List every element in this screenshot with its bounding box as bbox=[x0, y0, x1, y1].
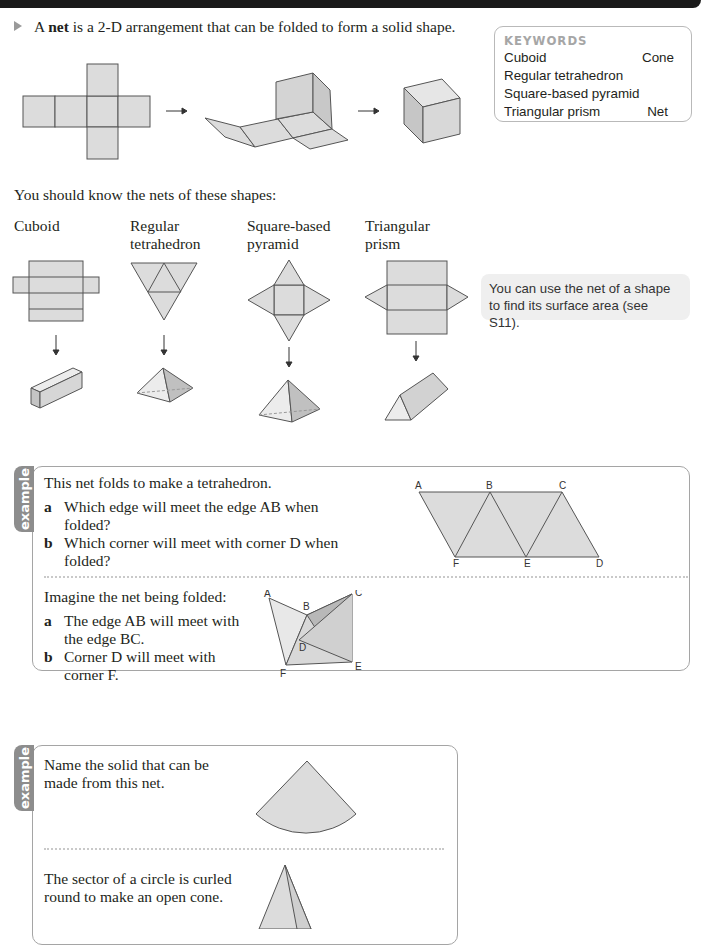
part-label: a bbox=[44, 498, 64, 534]
square-pyramid-net bbox=[248, 260, 330, 341]
nets-intro: You should know the nets of these shapes… bbox=[14, 186, 276, 204]
keywords-box: KEYWORDS CuboidCone Regular tetrahedron … bbox=[494, 26, 692, 122]
answer-line: Corner D will meet with bbox=[64, 648, 216, 665]
svg-text:D: D bbox=[299, 642, 306, 653]
svg-text:B: B bbox=[303, 601, 310, 612]
answer-line: round to make an open cone. bbox=[44, 888, 232, 906]
part-label: a bbox=[44, 612, 64, 648]
sector-net-diagram bbox=[250, 758, 370, 843]
answer-line: the edge BC. bbox=[64, 630, 145, 647]
answer-line: The sector of a circle is curled bbox=[44, 870, 232, 888]
shape-label-line: Regular bbox=[130, 217, 201, 235]
top-banner bbox=[0, 0, 701, 8]
shape-label-line: Cuboid bbox=[14, 217, 60, 235]
keyword: Triangular prism bbox=[504, 103, 600, 121]
divider bbox=[44, 848, 444, 850]
svg-text:C: C bbox=[559, 480, 566, 491]
shape-nets-diagram bbox=[0, 255, 480, 425]
svg-text:E: E bbox=[524, 558, 531, 569]
question-part: bWhich corner will meet with corner D wh… bbox=[44, 534, 364, 570]
example2-question: Name the solid that can bemade from this… bbox=[44, 756, 209, 792]
keyword: Regular tetrahedron bbox=[504, 67, 623, 85]
part-text: Which edge will meet the edge AB when fo… bbox=[64, 498, 364, 534]
example1-parts: aWhich edge will meet the edge AB when f… bbox=[44, 498, 364, 570]
shape-label-line: Square-based bbox=[247, 217, 331, 235]
question-line: Name the solid that can be bbox=[44, 756, 209, 774]
intro-term: net bbox=[48, 18, 69, 35]
answer-part: bCorner D will meet withcorner F. bbox=[44, 648, 264, 684]
svg-text:C: C bbox=[355, 590, 362, 598]
question-part: aWhich edge will meet the edge AB when f… bbox=[44, 498, 364, 534]
arrow-right-icon bbox=[358, 108, 379, 114]
example-tab: example bbox=[14, 466, 34, 532]
shape-label-line: pyramid bbox=[247, 235, 331, 253]
shape-label-line: Triangular bbox=[365, 217, 430, 235]
cuboid-net bbox=[13, 261, 99, 321]
shape-label-tetrahedron: Regulartetrahedron bbox=[130, 217, 201, 253]
svg-text:F: F bbox=[280, 668, 286, 679]
prism-net bbox=[365, 261, 468, 334]
bullet-triangle-icon bbox=[14, 21, 22, 31]
keyword-row: Square-based pyramid bbox=[504, 85, 682, 103]
svg-text:D: D bbox=[596, 558, 603, 569]
shape-label-line: tetrahedron bbox=[130, 235, 201, 253]
arrow-right-icon bbox=[166, 108, 187, 114]
svg-text:B: B bbox=[486, 480, 493, 491]
question-line: made from this net. bbox=[44, 774, 209, 792]
part-label: b bbox=[44, 648, 64, 684]
solution-intro: Imagine the net being folded: bbox=[44, 588, 227, 606]
tetrahedron-net-labelled: A B C bbox=[400, 478, 620, 558]
part-label: b bbox=[44, 534, 64, 570]
intro-prefix: A bbox=[34, 18, 48, 35]
divider bbox=[44, 576, 688, 578]
example-tab: example bbox=[14, 745, 34, 811]
part-text: The edge AB will meet withthe edge BC. bbox=[64, 612, 239, 648]
keywords-title: KEYWORDS bbox=[504, 32, 682, 49]
tip-note: You can use the net of a shape to find i… bbox=[481, 274, 690, 320]
keyword: Square-based pyramid bbox=[504, 85, 639, 103]
svg-text:A: A bbox=[415, 480, 422, 491]
part-text: Which corner will meet with corner D whe… bbox=[64, 534, 364, 570]
folded-net-diagram: ABC DE bbox=[260, 590, 380, 670]
keyword-row: CuboidCone bbox=[504, 49, 682, 67]
answer-line: corner F. bbox=[64, 666, 119, 683]
keyword: Cuboid bbox=[504, 49, 546, 67]
keyword-row: Triangular prismNet bbox=[504, 103, 682, 121]
shape-label-prism: Triangularprism bbox=[365, 217, 430, 253]
example1-question: This net folds to make a tetrahedron. bbox=[44, 474, 272, 492]
example-tab-label: example bbox=[17, 747, 32, 809]
shape-label-pyramid: Square-basedpyramid bbox=[247, 217, 331, 253]
part-text: Corner D will meet withcorner F. bbox=[64, 648, 216, 684]
intro-suffix: is a 2-D arrangement that can be folded … bbox=[69, 18, 456, 35]
answer-part: aThe edge AB will meet withthe edge BC. bbox=[44, 612, 264, 648]
tetrahedron-net bbox=[131, 263, 197, 320]
example2-answer: The sector of a circle is curledround to… bbox=[44, 870, 232, 906]
shape-label-line: prism bbox=[365, 235, 430, 253]
svg-text:F: F bbox=[453, 558, 459, 569]
cone-diagram bbox=[255, 862, 335, 929]
example1-answers: aThe edge AB will meet withthe edge BC. … bbox=[44, 612, 264, 684]
cube-folding-diagram bbox=[0, 40, 480, 170]
keyword-row: Regular tetrahedron bbox=[504, 67, 682, 85]
keyword: Net bbox=[647, 103, 668, 121]
label-F: F bbox=[278, 666, 298, 680]
intro-text: A net is a 2-D arrangement that can be f… bbox=[14, 18, 455, 36]
svg-text:A: A bbox=[264, 590, 271, 599]
net-bottom-labels: F E D bbox=[440, 552, 640, 572]
answer-line: The edge AB will meet with bbox=[64, 612, 239, 629]
example-tab-label: example bbox=[17, 468, 32, 530]
arrow-down-icons bbox=[53, 335, 419, 367]
svg-text:E: E bbox=[355, 661, 362, 670]
shape-label-cuboid: Cuboid bbox=[14, 217, 60, 235]
keyword: Cone bbox=[642, 49, 674, 67]
